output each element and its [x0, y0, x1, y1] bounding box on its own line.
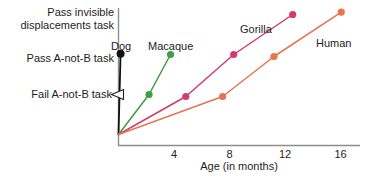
- y-axis-label-fail-a-not-b: Fail A-not-B task: [31, 88, 112, 101]
- chart-series-group: [117, 9, 345, 135]
- data-point-gorilla-1: [182, 93, 189, 100]
- series-label-dog: Dog: [111, 40, 131, 52]
- series-line-macaque: [119, 55, 171, 135]
- chart-container: Pass invisible displacements task Pass A…: [0, 0, 366, 182]
- y-axis-label-pass-a-not-b: Pass A-not-B task: [27, 52, 114, 65]
- x-tick-label-12: 12: [273, 148, 297, 160]
- y-axis-label-pass-invisible-line1: Pass invisible: [47, 6, 114, 18]
- chart-axes: [118, 8, 360, 146]
- series-macaque: [119, 51, 175, 135]
- data-point-human-1: [219, 93, 226, 100]
- x-tick-label-8: 8: [218, 148, 242, 160]
- data-point-human-2: [270, 53, 277, 60]
- y-axis-label-pass-invisible: Pass invisible displacements task: [20, 6, 114, 31]
- data-point-human-3: [338, 9, 345, 16]
- series-label-human: Human: [316, 37, 351, 49]
- x-tick-label-16: 16: [329, 148, 353, 160]
- x-tick-label-4: 4: [162, 148, 186, 160]
- data-point-gorilla-2: [230, 51, 237, 58]
- series-label-macaque: Macaque: [148, 40, 193, 52]
- data-point-gorilla-3: [289, 11, 296, 18]
- y-axis-label-pass-invisible-line2: displacements task: [20, 19, 114, 31]
- fail-task-arrowhead: [112, 90, 124, 100]
- chart-annotation-group: [112, 90, 124, 100]
- data-point-macaque-1: [145, 91, 152, 98]
- series-label-gorilla: Gorilla: [240, 23, 272, 35]
- x-axis-title: Age (in months): [159, 160, 319, 172]
